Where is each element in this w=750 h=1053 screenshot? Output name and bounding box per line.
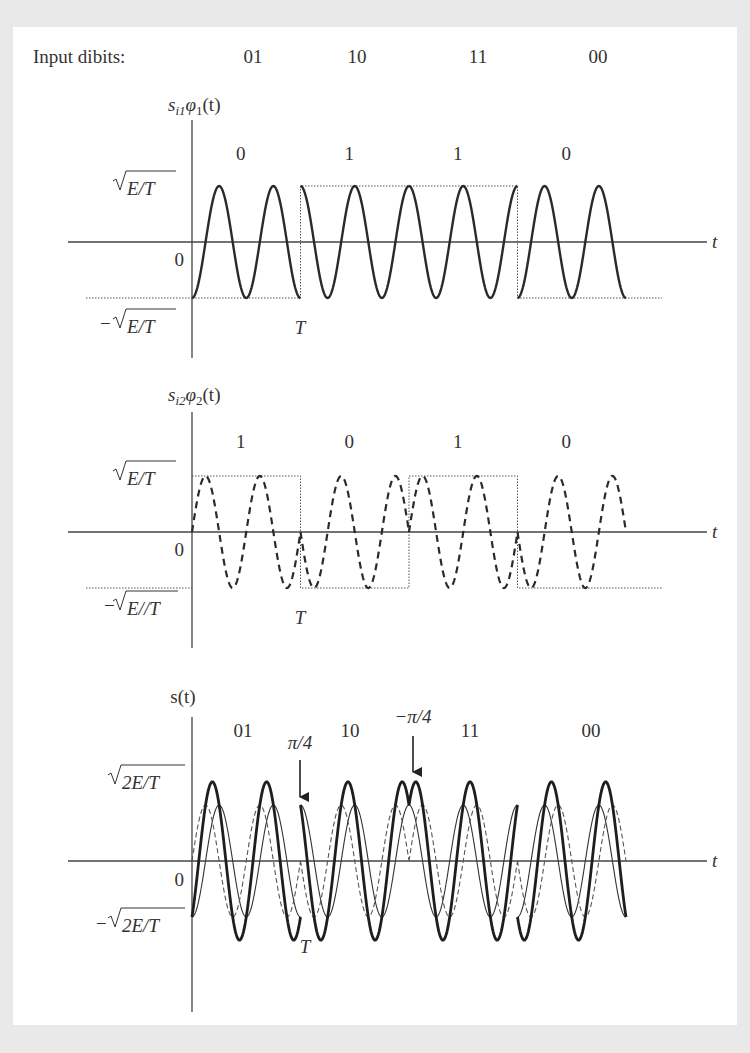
symbol-bit-label: 1 <box>345 143 355 164</box>
symbol-bit-label: 0 <box>562 431 572 452</box>
svg-text:−: − <box>104 595 115 616</box>
svg-text:2E/T: 2E/T <box>122 772 160 793</box>
y-top-label: 2E/T <box>108 765 185 793</box>
symbol-bit-label: 1 <box>236 431 246 452</box>
symbol-period-label: T <box>295 607 307 628</box>
dibit-label: 00 <box>582 720 601 741</box>
svg-text:E//T: E//T <box>126 598 161 619</box>
dibit-label: 10 <box>348 46 367 67</box>
svg-text:−: − <box>96 913 107 934</box>
qpsk-figure: Input dibits: 01 10 11 00 si1φ1(t) t 0 T… <box>0 0 750 1053</box>
plot-title: s(t) <box>170 686 195 708</box>
y-bottom-label: − E/T <box>100 309 176 337</box>
phase-shift-annotation: −π/4 <box>394 706 432 727</box>
dibit-label: 01 <box>234 720 253 741</box>
svg-text:E/T: E/T <box>126 468 156 489</box>
t-axis-label: t <box>712 231 718 252</box>
dibit-label: 00 <box>589 46 608 67</box>
dibit-label: 10 <box>341 720 360 741</box>
svg-text:2E/T: 2E/T <box>122 915 160 936</box>
zero-label: 0 <box>175 249 185 270</box>
zero-label: 0 <box>175 539 185 560</box>
plot-in-phase: si1φ1(t) t 0 T E/T − E/T 0110 <box>68 94 718 358</box>
dibit-label: 11 <box>469 46 487 67</box>
dibit-label: 11 <box>461 720 479 741</box>
plot-qpsk-sum: s(t) t 0 T 2E/T − 2E/T 01 10 11 00 π/4 −… <box>68 686 718 1012</box>
t-axis-label: t <box>712 850 718 871</box>
symbol-period-label: T <box>300 936 312 957</box>
input-dibits-label: Input dibits: <box>33 46 125 67</box>
symbol-bit-label: 1 <box>453 143 463 164</box>
dibit-label: 01 <box>244 46 263 67</box>
plot-quadrature: si2φ2(t) t 0 T E/T − E//T 1010 <box>68 384 718 648</box>
symbol-bit-label: 0 <box>345 431 355 452</box>
phase-shift-annotation: π/4 <box>288 732 313 753</box>
nrz-envelope: 1010 <box>86 431 662 588</box>
zero-label: 0 <box>175 869 185 890</box>
plot-title: si2φ2(t) <box>168 384 220 408</box>
y-top-label: E/T <box>113 171 176 199</box>
y-top-label: E/T <box>113 461 176 489</box>
symbol-period-label: T <box>295 317 307 338</box>
t-axis-label: t <box>712 521 718 542</box>
svg-text:E/T: E/T <box>126 316 156 337</box>
y-bottom-label: − E//T <box>104 591 178 619</box>
y-bottom-label: − 2E/T <box>96 908 185 936</box>
svg-text:−: − <box>100 313 111 334</box>
symbol-bit-label: 0 <box>236 143 246 164</box>
y-top-text: E/T <box>126 178 156 199</box>
plot-title: si1φ1(t) <box>168 94 220 118</box>
symbol-bit-label: 1 <box>453 431 463 452</box>
symbol-bit-label: 0 <box>562 143 572 164</box>
